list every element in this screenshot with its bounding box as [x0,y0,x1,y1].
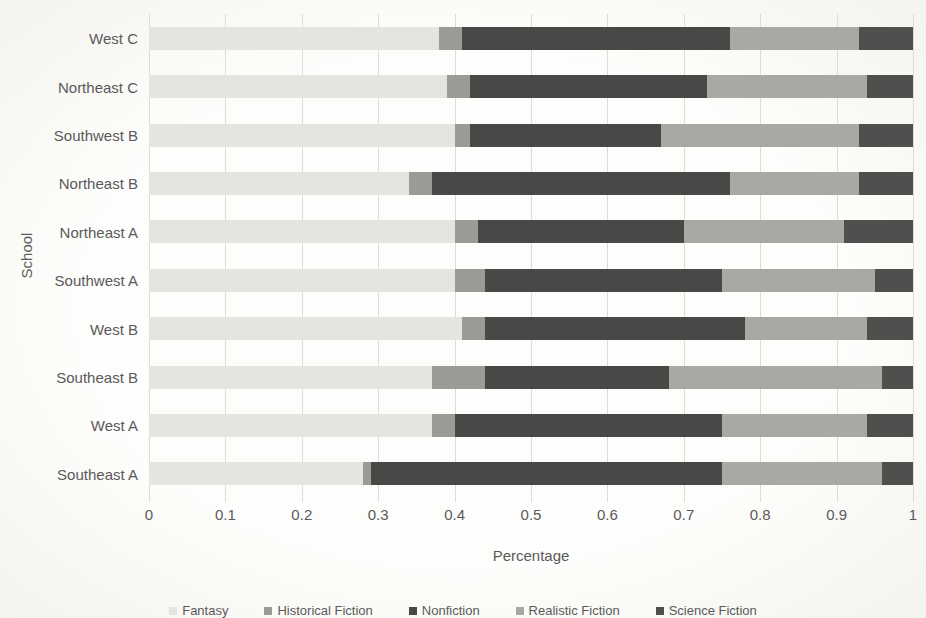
category-label: Southeast B [56,369,138,386]
bar-segment [149,172,409,195]
x-tick-label: 0.6 [597,506,618,523]
bar-row [149,317,913,340]
legend-label: Historical Fiction [277,603,372,618]
bar-segment [149,27,439,50]
bar-segment [470,124,661,147]
legend-item: Science Fiction [656,603,757,618]
bar-segment [149,269,455,292]
legend-item: Realistic Fiction [516,603,620,618]
bar-row [149,27,913,50]
legend-label: Fantasy [182,603,228,618]
bar-row [149,124,913,147]
x-axis-labels: 00.10.20.30.40.50.60.70.80.91 [149,506,913,524]
x-tick-label: 0.4 [444,506,465,523]
bar-segment [447,75,470,98]
legend: FantasyHistorical FictionNonfictionReali… [0,603,926,618]
plot-area [149,14,913,498]
x-tick-label: 0.9 [826,506,847,523]
chart-root: West CNortheast CSouthwest BNortheast BN… [0,0,926,618]
bar-segment [462,317,485,340]
bar-segment [149,366,432,389]
bar-row [149,462,913,485]
bar-segment [859,124,912,147]
bar-segment [485,269,722,292]
legend-marker-icon [409,607,417,615]
bar-segment [722,414,867,437]
legend-marker-icon [264,607,272,615]
bar-segment [882,462,913,485]
bar-segment [149,220,455,243]
bar-segment [455,124,470,147]
category-label: Southeast A [57,465,138,482]
bar-segment [875,269,913,292]
bar-segment [730,27,860,50]
bar-row [149,75,913,98]
bar-segment [149,124,455,147]
bar-segment [470,75,707,98]
category-label: Northeast B [59,175,138,192]
bar-segment [707,75,867,98]
bar-segment [363,462,371,485]
x-tick-label: 0.3 [368,506,389,523]
bar-segment [485,366,668,389]
bar-segment [432,172,730,195]
legend-marker-icon [656,607,664,615]
bar-segment [432,366,485,389]
x-tick-label: 0.5 [521,506,542,523]
bar-row [149,269,913,292]
bar-segment [722,269,875,292]
bar-row [149,366,913,389]
category-label: West B [90,320,138,337]
bar-segment [722,462,882,485]
bar-segment [149,75,447,98]
gridline [913,14,914,502]
bar-segment [149,317,462,340]
x-axis-title: Percentage [149,547,913,564]
bar-segment [730,172,860,195]
x-tick-label: 0.1 [215,506,236,523]
x-tick-label: 0.7 [673,506,694,523]
bar-segment [882,366,913,389]
x-tick-label: 1 [909,506,917,523]
x-tick-label: 0.2 [291,506,312,523]
bar-segment [371,462,722,485]
bar-segment [409,172,432,195]
legend-label: Science Fiction [669,603,757,618]
bar-segment [432,414,455,437]
legend-label: Nonfiction [422,603,480,618]
bar-segment [485,317,745,340]
bar-row [149,172,913,195]
bar-segment [149,414,432,437]
category-label: Southwest B [54,127,138,144]
legend-marker-icon [169,607,177,615]
bar-segment [745,317,867,340]
category-label: Southwest A [55,272,138,289]
bar-segment [455,220,478,243]
bar-segment [867,317,913,340]
x-tick-label: 0.8 [750,506,771,523]
x-tick-label: 0 [145,506,153,523]
bar-segment [859,172,912,195]
legend-item: Fantasy [169,603,228,618]
category-label: Northeast C [58,78,138,95]
legend-marker-icon [516,607,524,615]
bar-segment [455,414,722,437]
legend-item: Historical Fiction [264,603,372,618]
bar-segment [661,124,860,147]
bar-segment [867,75,913,98]
bar-segment [149,462,363,485]
bar-row [149,220,913,243]
bar-segment [669,366,883,389]
bar-segment [867,414,913,437]
bar-segment [455,269,486,292]
bar-row [149,414,913,437]
legend-item: Nonfiction [409,603,480,618]
bar-segment [439,27,462,50]
bar-segment [478,220,684,243]
category-label: West C [89,30,138,47]
bar-segment [844,220,913,243]
category-label: West A [91,417,138,434]
bar-segment [684,220,844,243]
y-axis-title: School [18,204,35,308]
bar-segment [859,27,912,50]
